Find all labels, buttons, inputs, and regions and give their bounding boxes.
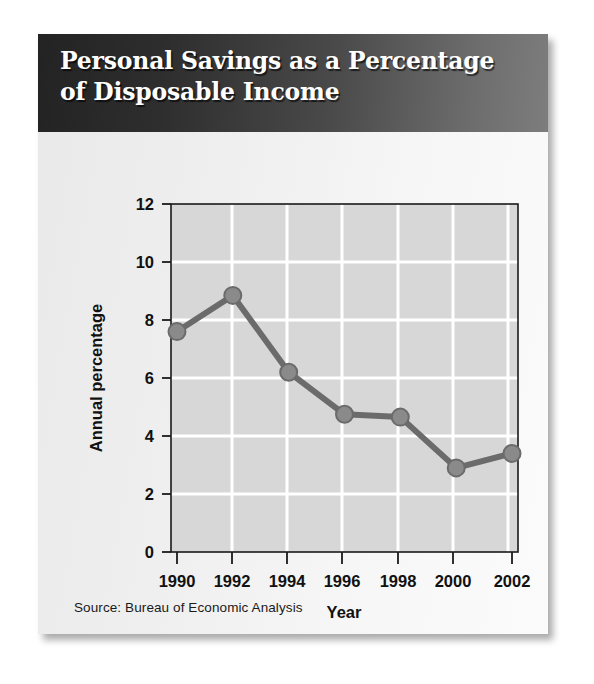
- chart-plot-area: 12 10 8 6 4 2 0 Annual percentage: [38, 132, 548, 634]
- x-tick-label: 1990: [159, 572, 196, 590]
- figure-card: Personal Savings as a Percentage of Disp…: [38, 34, 548, 634]
- x-tick-label: 1996: [324, 572, 361, 590]
- y-tick-label: 10: [136, 253, 154, 271]
- data-point-marker: [336, 406, 353, 423]
- y-tick-label: 4: [145, 427, 155, 445]
- data-point-marker: [280, 364, 297, 381]
- y-tick-label: 2: [145, 485, 154, 503]
- x-tick-label: 1994: [269, 572, 307, 590]
- line-chart-svg: 12 10 8 6 4 2 0 Annual percentage: [38, 132, 548, 634]
- data-point-marker: [448, 459, 465, 476]
- x-tick-label: 2002: [494, 572, 531, 590]
- data-point-marker: [392, 409, 409, 426]
- y-tick-label: 6: [145, 369, 154, 387]
- y-axis-title: Annual percentage: [87, 304, 105, 453]
- x-tick-label: 1998: [380, 572, 417, 590]
- y-axis-tick-labels: 12 10 8 6 4 2 0: [136, 195, 155, 561]
- x-tick-label: 1992: [214, 572, 251, 590]
- y-tick-label: 0: [145, 543, 154, 561]
- data-point-marker: [504, 445, 521, 462]
- y-tick-label: 8: [145, 311, 154, 329]
- y-tick-label: 12: [136, 195, 154, 213]
- x-axis-title: Year: [327, 603, 362, 621]
- title-banner: Personal Savings as a Percentage of Disp…: [38, 34, 548, 132]
- data-point-marker: [169, 323, 186, 340]
- x-axis-ticks: [177, 552, 512, 564]
- x-axis-tick-labels: 1990 1992 1994 1996 1998 2000 2002: [159, 572, 531, 590]
- page-title: Personal Savings as a Percentage of Disp…: [60, 46, 528, 108]
- source-note: Source: Bureau of Economic Analysis: [74, 600, 303, 615]
- y-axis-ticks: [162, 204, 171, 552]
- x-tick-label: 2000: [435, 572, 472, 590]
- data-point-marker: [224, 287, 241, 304]
